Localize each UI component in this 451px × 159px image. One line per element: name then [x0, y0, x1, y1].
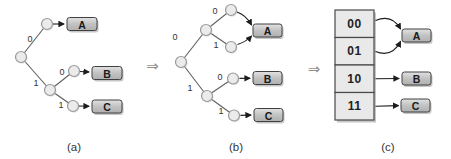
tree-edge: [21, 24, 47, 57]
pointer-arrow: [376, 18, 401, 29]
box-label: C: [265, 110, 273, 122]
tree-b: 001101ABC: [172, 5, 284, 124]
symbol-box-b: B: [92, 67, 124, 82]
edge-bit-label: 0: [59, 67, 64, 77]
table-cell-label: 10: [347, 72, 361, 86]
tree-node: [45, 85, 56, 96]
box-label: B: [103, 68, 111, 80]
implies-arrow-icon: ⇒: [146, 57, 159, 75]
code-table-c: 00011011ABC: [335, 10, 433, 123]
box-label: A: [78, 19, 86, 31]
pointer-arrow: [376, 42, 401, 54]
edge-bit-label: 1: [187, 83, 192, 93]
tree-node: [229, 110, 240, 121]
box-label: C: [412, 100, 420, 112]
tree-node: [69, 66, 80, 77]
pointer-arrow: [238, 36, 252, 45]
box-label: B: [264, 73, 272, 85]
code-tree-to-table-figure: 0101ABC001101ABC00011011ABC⇒⇒(a)(b)(c): [0, 0, 451, 159]
symbol-box-c: C: [254, 109, 285, 124]
tree-node: [201, 25, 212, 36]
table-cell-label: 01: [347, 44, 361, 58]
symbol-box-b: B: [253, 72, 284, 87]
tree-node: [176, 57, 187, 68]
box-label: A: [264, 25, 272, 37]
box-label: B: [413, 73, 421, 85]
edge-bit-label: 0: [217, 72, 222, 82]
tree-node: [228, 73, 239, 84]
subfigure-caption: (a): [67, 141, 81, 153]
edge-bit-label: 1: [58, 100, 63, 110]
tree-node: [68, 101, 79, 112]
symbol-box-c: C: [92, 100, 124, 115]
box-label: C: [103, 101, 111, 113]
edge-bit-label: 1: [213, 40, 218, 50]
symbol-box-b: B: [402, 72, 433, 87]
pointer-arrow: [237, 12, 252, 25]
tree-a: 0101ABC: [16, 18, 124, 116]
symbol-box-a: A: [402, 29, 433, 44]
symbol-box-a: A: [253, 24, 284, 39]
pointer-arrow: [376, 106, 399, 107]
implies-arrow-icon: ⇒: [308, 60, 321, 78]
edge-bit-label: 1: [33, 78, 38, 88]
figure-canvas: 0101ABC001101ABC00011011ABC⇒⇒(a)(b)(c): [0, 0, 451, 159]
symbol-box-c: C: [401, 99, 432, 114]
tree-node: [42, 19, 53, 30]
subfigure-caption: (c): [381, 141, 395, 153]
pointer-arrow: [80, 72, 89, 73]
edge-bit-label: 0: [27, 34, 32, 44]
tree-node: [202, 91, 213, 102]
table-cell-label: 11: [348, 99, 362, 113]
symbol-box-a: A: [67, 18, 99, 33]
box-label: A: [413, 30, 421, 42]
edge-bit-label: 0: [172, 32, 177, 42]
edge-bit-label: 0: [212, 6, 217, 16]
tree-node: [226, 42, 237, 53]
edge-bit-label: 1: [218, 106, 223, 116]
tree-node: [16, 52, 27, 63]
table-cell-label: 00: [347, 17, 361, 31]
subfigure-caption: (b): [229, 141, 243, 153]
tree-node: [226, 5, 237, 16]
